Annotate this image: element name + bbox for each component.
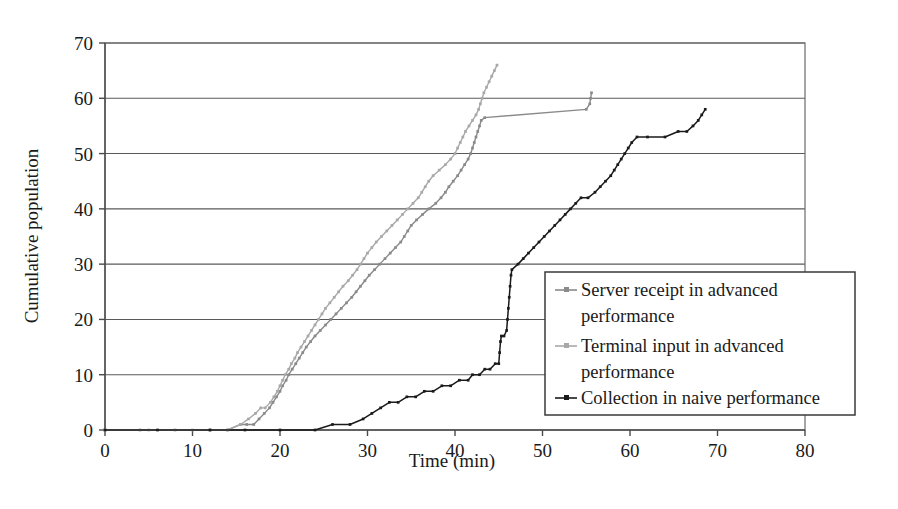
y-tick-label-70: 70	[74, 33, 93, 54]
data-point-marker	[440, 196, 443, 199]
data-point-marker	[359, 285, 362, 288]
data-point-marker	[303, 340, 306, 343]
data-point-marker	[301, 351, 304, 354]
data-point-marker	[664, 136, 667, 139]
data-point-marker	[623, 152, 626, 155]
data-point-marker	[359, 263, 362, 266]
y-tick-label-30: 30	[74, 254, 93, 275]
data-point-marker	[324, 307, 327, 310]
data-point-marker	[269, 401, 272, 404]
data-point-marker	[314, 335, 317, 338]
data-point-marker	[394, 246, 397, 249]
legend-label-0-line2[interactable]: performance	[581, 306, 674, 326]
data-point-marker	[427, 208, 430, 211]
data-point-marker	[380, 235, 383, 238]
data-point-marker	[432, 390, 435, 393]
data-point-marker	[366, 252, 369, 255]
data-point-marker	[511, 268, 514, 271]
data-point-marker	[527, 252, 530, 255]
legend-marker-point-1	[564, 343, 569, 348]
data-point-marker	[627, 147, 630, 150]
data-point-marker	[458, 379, 461, 382]
data-point-marker	[384, 257, 387, 260]
data-point-marker	[349, 423, 352, 426]
data-point-marker	[294, 362, 297, 365]
data-point-marker	[478, 125, 481, 128]
y-tick-label-20: 20	[74, 309, 93, 330]
data-point-marker	[309, 340, 312, 343]
data-point-marker	[692, 125, 695, 128]
data-point-marker	[559, 219, 562, 222]
data-point-marker	[548, 230, 551, 233]
data-point-marker	[340, 307, 343, 310]
data-point-marker	[423, 390, 426, 393]
x-tick-label-60: 60	[621, 440, 640, 461]
y-tick-label-50: 50	[74, 144, 93, 165]
data-point-marker	[467, 158, 470, 161]
data-point-marker	[333, 296, 336, 299]
y-axis-tick-labels: 010203040506070	[74, 33, 105, 441]
data-point-marker	[589, 97, 592, 100]
legend-label-1-line2[interactable]: performance	[581, 362, 674, 382]
data-point-marker	[543, 235, 546, 238]
data-point-marker	[588, 102, 591, 105]
data-point-marker	[471, 119, 474, 122]
data-point-marker	[375, 241, 378, 244]
data-point-marker	[636, 136, 639, 139]
x-tick-label-10: 10	[183, 440, 202, 461]
data-point-marker	[444, 163, 447, 166]
y-tick-label-10: 10	[74, 365, 93, 386]
data-point-marker	[272, 401, 275, 404]
data-point-marker	[580, 196, 583, 199]
data-point-marker	[268, 407, 271, 410]
data-point-marker	[305, 346, 308, 349]
data-point-marker	[351, 274, 354, 277]
chart-legend[interactable]: Server receipt in advancedperformanceTer…	[545, 272, 855, 415]
legend-label-2-line1[interactable]: Collection in naive performance	[581, 388, 820, 408]
data-point-marker	[264, 407, 267, 410]
data-point-marker	[415, 219, 418, 222]
data-point-marker	[337, 290, 340, 293]
data-point-marker	[478, 373, 481, 376]
data-point-marker	[620, 158, 623, 161]
data-point-marker	[468, 125, 471, 128]
data-point-marker	[356, 268, 359, 271]
data-point-marker	[569, 208, 572, 211]
data-point-marker	[279, 384, 282, 387]
data-point-marker	[503, 335, 506, 338]
data-point-marker	[444, 191, 447, 194]
data-point-marker	[379, 407, 382, 410]
data-point-marker	[276, 390, 279, 393]
data-point-marker	[406, 208, 409, 211]
data-point-marker	[471, 147, 474, 150]
data-point-marker	[254, 412, 257, 415]
data-point-marker	[496, 64, 499, 67]
data-point-marker	[553, 224, 556, 227]
data-point-marker	[385, 230, 388, 233]
data-point-marker	[298, 357, 301, 360]
data-point-marker	[700, 114, 703, 117]
data-point-marker	[368, 274, 371, 277]
data-point-marker	[310, 329, 313, 332]
data-point-marker	[500, 335, 503, 338]
data-point-marker	[564, 213, 567, 216]
data-point-marker	[497, 362, 500, 365]
data-point-marker	[490, 75, 493, 78]
data-point-marker	[441, 384, 444, 387]
y-tick-label-60: 60	[74, 88, 93, 109]
legend-label-1-line1[interactable]: Terminal input in advanced	[581, 336, 784, 356]
data-point-marker	[456, 147, 459, 150]
data-point-marker	[287, 373, 290, 376]
data-point-marker	[604, 180, 607, 183]
data-point-marker	[245, 423, 248, 426]
legend-label-0-line1[interactable]: Server receipt in advanced	[581, 280, 778, 300]
data-point-marker	[291, 368, 294, 371]
data-point-marker	[239, 423, 242, 426]
data-point-marker	[273, 395, 276, 398]
data-point-marker	[247, 418, 250, 421]
data-point-marker	[599, 185, 602, 188]
data-point-marker	[449, 384, 452, 387]
data-point-marker	[477, 108, 480, 111]
x-tick-label-0: 0	[100, 440, 110, 461]
data-point-marker	[329, 301, 332, 304]
